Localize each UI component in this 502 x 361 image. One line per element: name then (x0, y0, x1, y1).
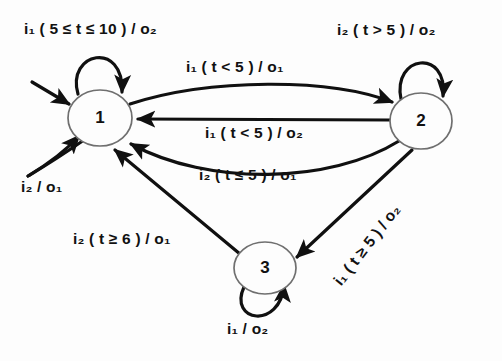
edge-self-loop-state-1-bottom-left-in (28, 136, 79, 176)
edge-transition-2-to-1-straight (138, 119, 390, 120)
state-node-1-label: 1 (95, 108, 104, 127)
edge-transition-1-to-2 (130, 84, 392, 104)
state-diagram-figure: 1 2 3 i₁ ( 5 ≤ t ≤ 10 ) / o₂ i₂ ( t > 5 … (0, 0, 502, 361)
state-node-3-label: 3 (260, 258, 269, 277)
edge-label-transition-1-to-2: i₁ ( t < 5 ) / o₁ (186, 58, 284, 76)
edge-label-transition-2-to-1-straight: i₁ ( t < 5 ) / o₂ (205, 124, 303, 142)
edge-label-self-loop-state-2-top: i₂ ( t > 5 ) / o₂ (337, 21, 436, 39)
edge-label-transition-3-to-1: i₂ ( t ≥ 6 ) / o₁ (73, 230, 171, 248)
state-node-2-label: 2 (416, 111, 425, 130)
edge-label-self-loop-state-1-bottom-left: i₂ / o₁ (21, 178, 62, 196)
initial-state-arrow (32, 82, 69, 104)
edge-label-transition-2-to-1-curved: i₂ ( t ≤ 5 ) / o₁ (199, 166, 297, 184)
edge-label-self-loop-state-1-top: i₁ ( 5 ≤ t ≤ 10 ) / o₂ (24, 20, 157, 38)
edge-self-loop-state-1-top (76, 58, 122, 94)
edge-label-self-loop-state-3-bottom: i₁ / o₂ (227, 320, 268, 338)
edge-transition-2-to-3 (297, 150, 412, 257)
